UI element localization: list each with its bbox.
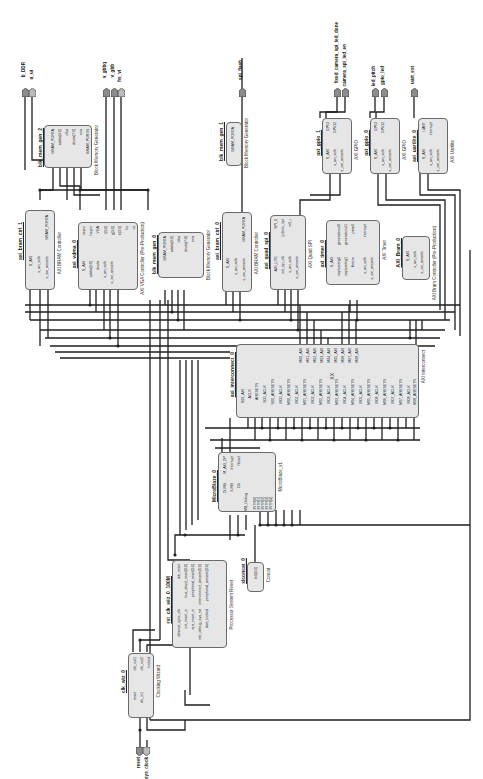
block-microblaze[interactable]: DLMB ILMB M_AXI_DP Interrupt Clk Reset M… xyxy=(218,452,276,512)
block-instance-name: blk_mem_gen_0 xyxy=(151,235,157,274)
pin-label: Interrupt xyxy=(230,456,234,469)
pin-label: s_axi_aclk xyxy=(37,256,41,273)
external-port-uart[interactable] xyxy=(411,88,418,97)
pin-label: ARESETN xyxy=(255,383,259,400)
block-ip-name: AXI GPIO xyxy=(402,140,407,160)
block-axi-quad-spi[interactable]: AXI_LITE ext_spi_clk s_axi_aclk s_axi_ar… xyxy=(270,215,306,290)
block-instance-name: clk_wiz_0 xyxy=(120,670,126,693)
block-instance-name: axi_bram_ctrl_0 xyxy=(214,222,220,260)
block-ip-name: AXI BRAM Controller xyxy=(57,232,62,274)
pin-label: S_AXI xyxy=(422,149,426,159)
pin-label: generateout0 xyxy=(337,224,341,245)
block-xlconcat[interactable]: In0[0:0] xyxy=(247,562,264,592)
pin-label: M00_ARESETN xyxy=(287,379,291,405)
block-blk-mem-gen-0[interactable]: BRAM_PORTA addra[9:0] clka douta[7:0] en… xyxy=(158,232,204,278)
port-label: fixed_camera_spi_led_done xyxy=(334,22,339,83)
pin-label: INTR[4] xyxy=(269,497,273,509)
pin-label: M05_ACLK xyxy=(359,385,363,403)
pin-label: M00_AXI xyxy=(299,348,303,363)
port-label: b_DDR xyxy=(21,62,26,77)
pin-label: S_AXI xyxy=(330,257,334,267)
pin-label: M04_ACLK xyxy=(343,385,347,403)
pin-label: M03_ARESETN xyxy=(335,379,339,405)
block-axi-interconnect[interactable]: M00_AXI M01_AXI M02_AXI M03_AXI M04_AXI … xyxy=(236,344,419,418)
port-label: reset xyxy=(136,757,141,768)
pin-label: clk_in1 xyxy=(140,692,144,703)
block-axi-vga-controller[interactable]: S_AXI addra[9:0] douta s_axi_aclk s_axi_… xyxy=(78,222,138,290)
block-ip-name: Block Memory Generator xyxy=(244,118,249,168)
block-ip-name: AXI Uartlite xyxy=(450,140,455,163)
block-axi-timer[interactable]: S_AXI capturetrig0 capturetrig1 freeze s… xyxy=(326,220,380,285)
block-ip-name: Concat xyxy=(266,568,271,582)
external-port-u_ui[interactable] xyxy=(29,88,36,97)
pin-label: s_axi_aclk xyxy=(381,149,385,166)
block-ip-name: AXI Bram Controller (Pre-Production) xyxy=(432,226,437,300)
pin-label: S_AXI xyxy=(29,256,33,266)
pin-label: M08_AXI xyxy=(355,348,359,363)
pin-label: AXI_LITE xyxy=(274,256,278,271)
block-ip-name: MicroBlaze_v1 xyxy=(278,462,283,492)
pin-label: M06_ACLK xyxy=(375,385,379,403)
pin-label: ext_reset_in xyxy=(184,609,188,629)
block-axi-gpio-1[interactable]: S_AXI s_axi_aclk s_axi_aresetn GPIO GPIO… xyxy=(322,118,352,174)
block-ip-name: Block Memory Generator xyxy=(94,125,99,175)
external-port-gpio0-a[interactable] xyxy=(372,88,379,97)
external-port-vga-g[interactable] xyxy=(111,88,118,97)
block-ip-name: AXI GPIO xyxy=(354,140,359,160)
pin-label: hs xyxy=(125,226,129,230)
external-port-vga-hs[interactable] xyxy=(118,88,125,97)
pin-label: douta[7:0] xyxy=(184,236,188,252)
external-port-b_ddr[interactable] xyxy=(22,88,29,97)
pin-label: M02_ARESETN xyxy=(319,379,323,405)
block-blk-mem-gen-2[interactable]: BRAM_PORTA addra[9:0] clka douta[7:0] en… xyxy=(44,125,92,168)
external-port-gpio0-b[interactable] xyxy=(381,88,388,97)
block-axi-gpio-0[interactable]: S_AXI s_axi_aclk s_axi_aresetn GPIO GPIO… xyxy=(370,118,400,174)
pin-label: dcm_locked xyxy=(205,609,209,628)
external-port-spi-flash[interactable] xyxy=(239,88,246,97)
pin-label: douta xyxy=(96,261,100,270)
external-port-vga-r[interactable] xyxy=(103,88,110,97)
external-port-gpio1-a[interactable] xyxy=(334,88,341,97)
block-processor-system-reset[interactable]: slowest_sync_clk ext_reset_in aux_reset_… xyxy=(172,560,227,648)
block-instance-name: axi_timer_0 xyxy=(319,240,325,268)
port-label: spi_flash xyxy=(238,60,243,80)
pin-label: s_axi_aresetn xyxy=(295,256,299,278)
pin-label: In0[0:0] xyxy=(254,567,258,579)
pin-label: s_axi_aclk xyxy=(413,251,417,268)
pin-label: M_AXI_DP xyxy=(223,456,227,474)
pin-label: GPIO xyxy=(374,122,378,131)
pin-label: S00_ACLK xyxy=(263,385,267,403)
pin-label: ip2intc_irpt xyxy=(281,219,285,236)
block-ip-name: AXI BRAM Controller xyxy=(254,232,259,274)
block-ip-name: Processor System Reset xyxy=(229,580,234,630)
pin-label: mb_reset xyxy=(177,564,181,579)
block-instance-name: AXI_Bram_0 xyxy=(395,238,401,267)
block-blk-mem-gen-1[interactable]: BRAM_PORTA xyxy=(226,122,242,166)
block-instance-name: axi_gpio_0 xyxy=(363,130,369,156)
pin-label: clk_out2 xyxy=(140,657,144,670)
port-label: uart_ext xyxy=(410,66,415,84)
pin-label: S_AXI xyxy=(406,251,410,261)
block-axi-bram-preproduction[interactable]: S_AXI s_axi_aclk s_axi_aresetn xyxy=(402,236,430,280)
pin-label: BRAM_PORTA xyxy=(45,215,49,239)
block-instance-name: axi_gpio_1 xyxy=(315,130,321,156)
port-label: v_gbb xyxy=(110,64,115,78)
block-clocking-wizard[interactable]: reset clk_in1 clk_out1 clk_out2 locked xyxy=(128,653,154,718)
pin-label: s_axi_aclk xyxy=(288,256,292,273)
external-port-sys-clock[interactable] xyxy=(143,747,150,756)
external-port-reset[interactable] xyxy=(136,747,143,756)
pin-label: Clk xyxy=(237,483,241,488)
pin-label: clka xyxy=(177,236,181,242)
pin-label: clka xyxy=(65,129,69,135)
pin-label: M00_ACLK xyxy=(279,385,283,403)
pin-label: s_axi_aclk xyxy=(333,149,337,166)
block-axi-bram-ctrl-1[interactable]: S_AXI s_axi_aclk s_axi_aresetn BRAM_PORT… xyxy=(25,210,55,290)
external-port-gpio1-b[interactable] xyxy=(342,88,349,97)
block-axi-bram-ctrl-0[interactable]: S_AXI s_axi_aclk s_axi_aresetn BRAM_PORT… xyxy=(222,212,252,292)
port-label: hs_vi xyxy=(117,70,122,82)
block-ip-name: AXI Quad SPI xyxy=(308,240,313,268)
pin-label: BRAM_PORTA xyxy=(163,236,167,260)
block-axi-uartlite[interactable]: S_AXI s_axi_aclk s_axi_aresetn UART inte… xyxy=(418,118,448,174)
pin-label: reset xyxy=(133,692,137,700)
pin-label: g[3:0] xyxy=(111,226,115,235)
